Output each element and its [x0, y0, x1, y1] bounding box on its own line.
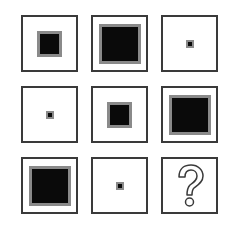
square-medium: [37, 31, 62, 57]
square-small: [46, 111, 54, 119]
square-medium: [107, 102, 132, 128]
square-large: [99, 24, 141, 64]
question-mark-icon: [170, 163, 210, 209]
cell-r1-c3: [161, 15, 218, 72]
cell-r2-c2: [91, 86, 148, 143]
square-large: [29, 166, 71, 206]
cell-r3-c1: [21, 157, 78, 214]
square-small: [116, 182, 124, 190]
cell-r3-c2: [91, 157, 148, 214]
cell-r3-c3-missing: [161, 157, 218, 214]
cell-r1-c1: [21, 15, 78, 72]
cell-r1-c2: [91, 15, 148, 72]
puzzle-grid: [21, 15, 218, 214]
square-large: [169, 95, 211, 135]
square-small: [186, 40, 194, 48]
cell-r2-c3: [161, 86, 218, 143]
cell-r2-c1: [21, 86, 78, 143]
